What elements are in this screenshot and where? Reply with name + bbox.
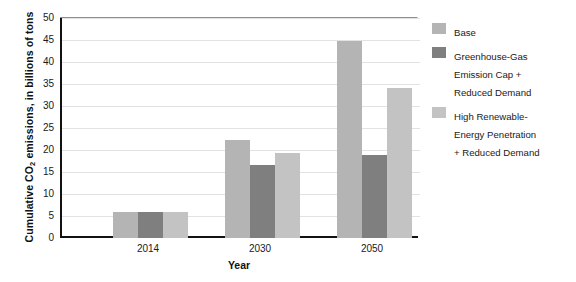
legend-label: Base [454,27,476,38]
bar [163,212,188,238]
bar-group [113,18,188,238]
y-axis-tick-label: 40 [28,57,54,67]
y-axis-title-pre: Cumulative CO [23,166,35,243]
bar [275,153,300,238]
bar [113,212,138,238]
y-axis-tick-label: 15 [28,167,54,177]
legend-label: High Renewable- Energy Penetration + Red… [454,111,540,158]
bar [225,140,250,238]
bars-layer [62,18,420,238]
y-axis-tick-label: 5 [28,211,54,221]
legend-label: Greenhouse-Gas Emission Cap + Reduced De… [454,51,531,98]
y-axis-tick-label: 30 [28,101,54,111]
bar-group [337,18,412,238]
legend-swatch [432,47,446,58]
y-axis-tick-label: 0 [28,233,54,243]
y-axis-tick-label: 50 [28,13,54,23]
legend-item: High Renewable- Energy Penetration + Red… [432,106,574,160]
bar [387,88,412,238]
y-axis-title-subscript: 2 [28,162,37,166]
y-axis-tick-label: 10 [28,189,54,199]
y-axis-tick-label: 45 [28,35,54,45]
legend-swatch [432,23,446,34]
plot-area [60,18,418,238]
y-axis-tick-label: 35 [28,79,54,89]
bar [138,212,163,238]
y-axis-tick-label: 25 [28,123,54,133]
bar-chart: Cumulative CO2 emissions, in billions of… [0,0,576,282]
x-axis-title: Year [60,259,418,271]
y-axis-tick-label: 20 [28,145,54,155]
legend-item: Base [432,22,574,40]
x-axis-tick-label: 2014 [118,243,178,254]
x-axis-tick-label: 2030 [230,243,290,254]
bar [337,41,362,238]
legend-item: Greenhouse-Gas Emission Cap + Reduced De… [432,46,574,100]
legend: BaseGreenhouse-Gas Emission Cap + Reduce… [432,22,574,166]
x-axis-tick-label: 2050 [342,243,402,254]
legend-swatch [432,107,446,118]
bar [250,165,275,238]
bar [362,155,387,238]
bar-group [225,18,300,238]
